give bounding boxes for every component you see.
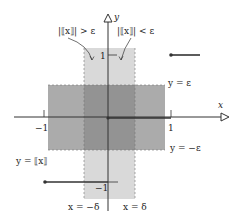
annotation-greater-epsilon: |⟦x⟧| > ε [58, 26, 95, 37]
annotation-less-epsilon: |⟦x⟧| < ε [117, 26, 154, 37]
y-tick-pos1-label: 1 [100, 51, 106, 61]
label-x-delta: x = δ [123, 202, 147, 212]
x-tick-pos1-label: 1 [168, 123, 174, 133]
label-y-epsilon: y = ε [167, 78, 191, 88]
label-function: y = ⟦x⟧ [15, 156, 47, 166]
label-y-neg-epsilon: y = −ε [169, 143, 201, 153]
x-tick-neg1-label: −1 [35, 123, 48, 133]
y-tick-neg1-label: −1 [95, 183, 108, 193]
diagram-canvas: y x −1 1 1 −1 |⟦x⟧| > ε |⟦x⟧| < ε y = ε … [0, 0, 238, 219]
y-axis-label: y [113, 12, 120, 22]
label-x-neg-delta: x = −δ [68, 202, 99, 212]
x-axis-label: x [218, 100, 223, 110]
